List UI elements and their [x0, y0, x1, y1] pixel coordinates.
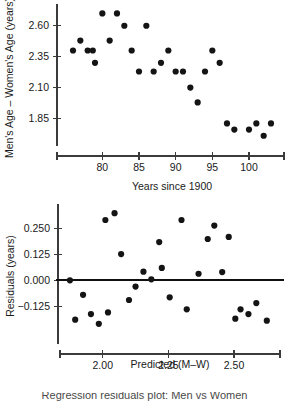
x-tick-label: 2.50: [224, 359, 245, 371]
bottom-y-axis-title: Residuals (years): [4, 235, 16, 317]
y-tick-label: 0.250: [24, 222, 50, 234]
data-point: [126, 297, 132, 303]
bottom-axes-group: 0.2500.1250.000−0.1252.002.252.50: [18, 204, 280, 371]
y-tick-label: 2.60: [29, 19, 50, 31]
top-data-points: [70, 10, 274, 139]
data-point: [245, 311, 251, 317]
data-point: [92, 60, 98, 66]
scatter-plot-age-gap: 2.602.352.101.8580859095100 Men's Age – …: [0, 0, 289, 196]
data-point: [178, 217, 184, 223]
data-point: [211, 222, 217, 228]
data-point: [167, 294, 173, 300]
data-point: [231, 126, 237, 132]
data-point: [268, 120, 274, 126]
top-y-axis-title: Men's Age – Women's Age (years): [3, 0, 15, 158]
top-x-axis-title: Years since 1900: [132, 180, 212, 192]
y-tick-label: 0.125: [24, 248, 50, 260]
y-tick-label: 1.85: [29, 112, 50, 124]
x-tick-label: 80: [96, 161, 108, 173]
top-axes-group: 2.602.352.101.8580859095100: [29, 4, 284, 173]
data-point: [70, 47, 76, 53]
data-point: [261, 133, 267, 139]
data-point: [114, 10, 120, 16]
figure-caption-clip: Regression residuals plot: Men vs Women: [0, 392, 289, 401]
data-point: [118, 251, 124, 257]
data-point: [88, 311, 94, 317]
data-point: [102, 217, 108, 223]
data-point: [156, 239, 162, 245]
data-point: [140, 269, 146, 275]
data-point: [195, 99, 201, 105]
data-point: [121, 23, 127, 29]
data-point: [159, 265, 165, 271]
y-tick-label: 2.35: [29, 50, 50, 62]
data-point: [180, 68, 186, 74]
x-tick-label: 2.00: [93, 359, 114, 371]
data-point: [77, 38, 83, 44]
data-point: [129, 47, 135, 53]
data-point: [224, 120, 230, 126]
data-point: [237, 306, 243, 312]
scatter-plot-residuals: 0.2500.1250.000−0.1252.002.252.50 Residu…: [0, 196, 289, 401]
age-gap-svg: 2.602.352.101.8580859095100 Men's Age – …: [0, 0, 289, 196]
data-point: [67, 277, 73, 283]
data-point: [232, 316, 238, 322]
data-point: [226, 234, 232, 240]
data-point: [253, 300, 259, 306]
data-point: [111, 210, 117, 216]
data-point: [246, 126, 252, 132]
data-point: [219, 269, 225, 275]
data-point: [107, 38, 113, 44]
data-point: [72, 317, 78, 323]
data-point: [105, 309, 111, 315]
x-tick-label: 85: [133, 161, 145, 173]
data-point: [90, 47, 96, 53]
data-point: [136, 68, 142, 74]
x-tick-label: 90: [170, 161, 182, 173]
data-point: [184, 306, 190, 312]
data-point: [264, 318, 270, 324]
data-point: [151, 68, 157, 74]
data-point: [165, 47, 171, 53]
data-point: [148, 276, 154, 282]
y-tick-label: 2.10: [29, 81, 50, 93]
data-point: [158, 60, 164, 66]
bottom-x-axis-title: Predicted (M–W): [131, 358, 210, 370]
data-point: [209, 47, 215, 53]
data-point: [173, 68, 179, 74]
residuals-svg: 0.2500.1250.000−0.1252.002.252.50 Residu…: [0, 196, 289, 401]
data-point: [253, 120, 259, 126]
figure-caption: Regression residuals plot: Men vs Women: [0, 392, 289, 401]
bottom-data-points: [67, 210, 270, 327]
y-tick-label: 0.000: [24, 274, 50, 286]
data-point: [195, 271, 201, 277]
y-tick-label: −0.125: [18, 300, 51, 312]
data-point: [202, 68, 208, 74]
data-point: [143, 23, 149, 29]
x-tick-label: 100: [240, 161, 258, 173]
data-point: [99, 10, 105, 16]
data-point: [80, 292, 86, 298]
data-point: [132, 283, 138, 289]
data-point: [205, 236, 211, 242]
data-point: [96, 321, 102, 327]
x-tick-label: 95: [206, 161, 218, 173]
data-point: [187, 84, 193, 90]
residual-analysis-figure: 2.602.352.101.8580859095100 Men's Age – …: [0, 0, 289, 401]
data-point: [217, 60, 223, 66]
